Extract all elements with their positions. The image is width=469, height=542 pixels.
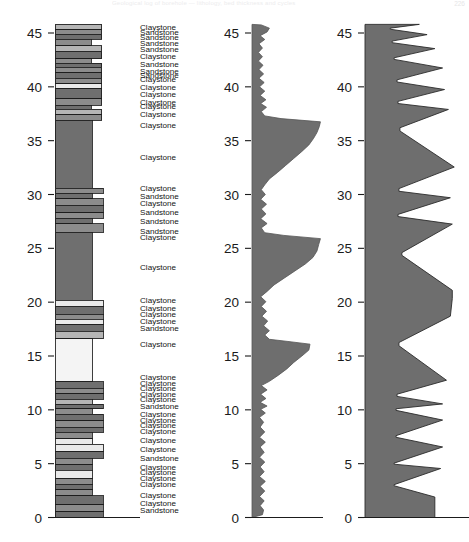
unit-label: Sandstone <box>140 507 179 515</box>
svg-text:5: 5 <box>34 457 42 472</box>
figure-root: Geological log of borehole — lithology, … <box>0 0 469 542</box>
thickness-curve-chart: 051015202530354045 <box>205 0 323 542</box>
lithology-bed <box>55 409 92 414</box>
unit-label: Claystone <box>140 111 176 119</box>
cycles-panel: 051015202530354045 <box>318 0 469 542</box>
lithology-chart: 051015202530354045 <box>0 0 150 542</box>
svg-text:25: 25 <box>224 241 239 256</box>
lithology-bed <box>55 452 103 458</box>
svg-text:0: 0 <box>231 511 239 526</box>
lithology-bed <box>55 73 102 78</box>
lithology-bed <box>55 404 103 408</box>
svg-text:20: 20 <box>27 295 42 310</box>
lithology-bed <box>55 496 103 505</box>
lithology-bed <box>55 388 103 393</box>
lithology-bed <box>55 30 102 34</box>
svg-text:40: 40 <box>27 80 42 95</box>
lithology-bed <box>55 427 103 432</box>
svg-text:40: 40 <box>224 80 239 95</box>
svg-text:25: 25 <box>27 241 42 256</box>
lithology-bed <box>55 394 103 399</box>
lithology-bed <box>55 331 103 339</box>
lithology-bed <box>55 382 103 388</box>
lithology-bed <box>55 490 92 496</box>
svg-text:35: 35 <box>224 134 239 149</box>
lithology-bed <box>55 319 103 324</box>
svg-text:20: 20 <box>337 295 352 310</box>
lithology-bed <box>55 479 92 484</box>
lithology-bed <box>55 213 103 218</box>
cycles-sawtooth-area <box>365 24 454 517</box>
unit-label: Sandstone <box>140 325 179 333</box>
svg-text:0: 0 <box>344 511 352 526</box>
lithology-bed <box>55 465 92 470</box>
lithology-bed <box>55 399 92 404</box>
lithology-bed <box>55 339 92 382</box>
svg-text:15: 15 <box>224 349 239 364</box>
lithology-bed <box>55 232 92 300</box>
unit-label: Claystone <box>140 234 176 242</box>
unit-label: Claystone <box>140 154 176 162</box>
unit-label: Claystone <box>140 481 176 489</box>
lithology-bed <box>55 218 92 223</box>
lithology-bed <box>55 109 102 114</box>
lithology-bed <box>55 67 102 72</box>
lithology-bed <box>55 199 103 205</box>
lithology-bed <box>55 300 103 306</box>
unit-labels-panel: ClaystoneSandstoneSandstoneSandstoneSand… <box>140 0 212 542</box>
lithology-bed <box>55 306 103 314</box>
svg-text:25: 25 <box>337 241 352 256</box>
lithology-bed <box>55 84 102 89</box>
lithology-bed <box>55 414 103 420</box>
lithology-bed <box>55 115 102 120</box>
svg-text:45: 45 <box>337 26 352 41</box>
lithology-bed <box>55 484 92 489</box>
svg-text:15: 15 <box>337 349 352 364</box>
lithology-bed <box>55 34 102 39</box>
lithology-bed <box>55 24 102 29</box>
lithology-bed <box>55 314 103 319</box>
lithology-bed <box>55 99 102 105</box>
svg-text:40: 40 <box>337 80 352 95</box>
svg-text:30: 30 <box>224 188 239 203</box>
lithology-bed <box>55 46 102 51</box>
unit-label: Claystone <box>140 446 176 454</box>
lithology-bed <box>55 59 91 63</box>
cycles-chart: 051015202530354045 <box>318 0 469 542</box>
lithology-bed <box>55 505 103 512</box>
unit-label: Sandstone <box>140 218 179 226</box>
unit-label: Claystone <box>140 122 176 130</box>
svg-text:45: 45 <box>224 26 239 41</box>
unit-label: Claystone <box>140 264 176 272</box>
svg-text:30: 30 <box>27 188 42 203</box>
svg-text:30: 30 <box>337 188 352 203</box>
thickness-curve-area <box>252 24 320 517</box>
lithology-bed <box>55 432 92 438</box>
svg-text:20: 20 <box>224 295 239 310</box>
unit-label: Claystone <box>140 341 176 349</box>
svg-text:10: 10 <box>27 403 42 418</box>
lithology-bed <box>55 188 103 193</box>
lithology-bed <box>55 224 103 233</box>
unit-label: Sandstone <box>140 209 179 217</box>
svg-text:35: 35 <box>27 134 42 149</box>
svg-text:15: 15 <box>27 349 42 364</box>
svg-text:10: 10 <box>337 403 352 418</box>
thickness-curve-panel: 051015202530354045 <box>205 0 323 542</box>
lithology-bed <box>55 439 92 444</box>
lithology-bed <box>55 444 103 452</box>
lithology-bed <box>55 89 102 99</box>
lithology-bed <box>55 470 92 479</box>
lithology-bed <box>55 193 92 198</box>
lithology-bed <box>55 51 102 59</box>
lithology-bed <box>55 205 103 213</box>
svg-text:10: 10 <box>224 403 239 418</box>
svg-text:35: 35 <box>337 134 352 149</box>
lithology-bed <box>55 120 92 188</box>
lithology-bed <box>55 325 103 331</box>
lithology-bed <box>55 105 91 109</box>
lithology-bed <box>55 458 92 464</box>
svg-text:45: 45 <box>27 26 42 41</box>
unit-label: Claystone <box>140 437 176 445</box>
lithology-bed <box>55 39 91 45</box>
